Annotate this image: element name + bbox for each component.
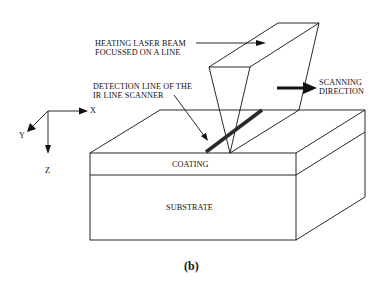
laser-beam-top-face <box>209 23 319 67</box>
detection-pointer-arrowhead <box>201 133 208 141</box>
detection-label-pointer <box>174 95 205 137</box>
diagram-canvas <box>0 0 384 284</box>
box-right-face <box>296 110 365 240</box>
figure-caption: (b) <box>184 259 199 274</box>
detection-line-label-line2: IR LINE SCANNER <box>93 91 192 100</box>
scanning-direction-label: SCANNING DIRECTION <box>319 78 364 96</box>
scanning-direction-label-line1: SCANNING <box>319 78 364 87</box>
laser-beam-edge-back <box>299 23 319 110</box>
coating-label: COATING <box>172 160 209 169</box>
substrate-label: SUBSTRATE <box>166 203 213 212</box>
laser-focus-line <box>230 110 299 153</box>
scanning-direction-label-line2: DIRECTION <box>319 87 364 96</box>
laser-beam-label: HEATING LASER BEAM FOCUSSED ON A LINE <box>95 39 186 57</box>
x-axis-arrowhead <box>79 108 88 115</box>
z-axis-label: Z <box>45 166 50 175</box>
box-top-face <box>90 110 365 153</box>
laser-beam-label-line1: HEATING LASER BEAM <box>95 39 186 48</box>
y-axis-label: Y <box>19 131 25 140</box>
scanning-direction-arrowhead <box>303 82 317 94</box>
detection-line-label: DETECTION LINE OF THE IR LINE SCANNER <box>93 82 192 100</box>
x-axis-label: X <box>90 106 96 115</box>
laser-beam-label-line2: FOCUSSED ON A LINE <box>95 48 186 57</box>
coating-interface-side-line <box>296 132 365 175</box>
laser-pointer-arrowhead <box>256 40 266 46</box>
detection-line-bar <box>206 110 262 152</box>
y-axis-line <box>31 111 48 128</box>
z-axis-arrowhead <box>45 145 51 154</box>
detection-line-label-line1: DETECTION LINE OF THE <box>93 82 192 91</box>
